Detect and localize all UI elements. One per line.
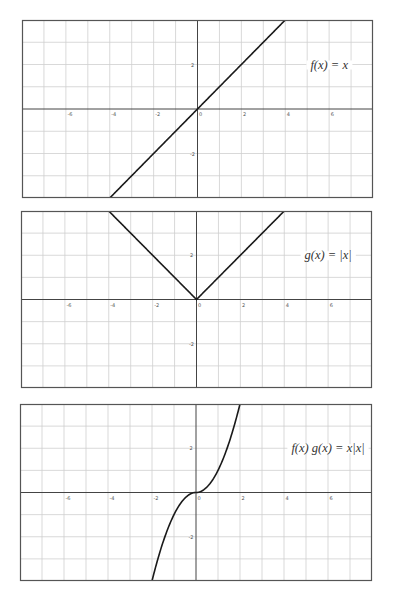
x-tick-label: -4 [111, 111, 116, 117]
x-tick-label: -6 [67, 111, 72, 117]
y-tick-label: 2 [191, 62, 194, 68]
y-tick-label: 2 [190, 252, 193, 258]
x-tick-label: -4 [110, 302, 115, 308]
y-tick-label: -2 [190, 151, 195, 157]
x-tick-label: 6 [331, 111, 334, 117]
x-tick-label: 6 [330, 302, 333, 308]
x-tick-label: 0 [198, 302, 201, 308]
chart-svg: -6-4-20246-22f(x) = x [22, 20, 373, 198]
y-tick-label: -2 [189, 341, 194, 347]
chart-svg: -6-4-20246-22g(x) = |x| [21, 211, 372, 388]
x-tick-label: 2 [242, 495, 245, 501]
x-tick-label: -2 [155, 111, 160, 117]
x-tick-label: 4 [286, 302, 289, 308]
x-tick-label: -4 [110, 495, 115, 501]
y-tick-label: -2 [189, 534, 194, 540]
x-tick-label: -6 [66, 302, 71, 308]
plot-product-x-abs-x: -6-4-20246-22f(x) g(x) = x|x| [20, 404, 372, 581]
chart-svg: -6-4-20246-22f(x) g(x) = x|x| [20, 404, 372, 581]
function-label: g(x) = |x| [305, 248, 352, 262]
x-tick-label: 6 [330, 495, 333, 501]
x-tick-label: 4 [287, 111, 290, 117]
x-tick-label: -2 [154, 495, 159, 501]
function-label: f(x) = x [310, 58, 348, 72]
x-tick-label: 0 [198, 495, 201, 501]
plot-g-absolute: -6-4-20246-22g(x) = |x| [21, 211, 372, 388]
x-tick-label: 2 [242, 302, 245, 308]
x-tick-label: 0 [199, 111, 202, 117]
x-tick-label: -2 [154, 302, 159, 308]
y-tick-label: 2 [189, 445, 192, 451]
function-label: f(x) g(x) = x|x| [291, 441, 364, 455]
x-tick-label: 2 [243, 111, 246, 117]
plot-f-identity: -6-4-20246-22f(x) = x [22, 20, 373, 198]
x-tick-label: 4 [286, 495, 289, 501]
x-tick-label: -6 [66, 495, 71, 501]
